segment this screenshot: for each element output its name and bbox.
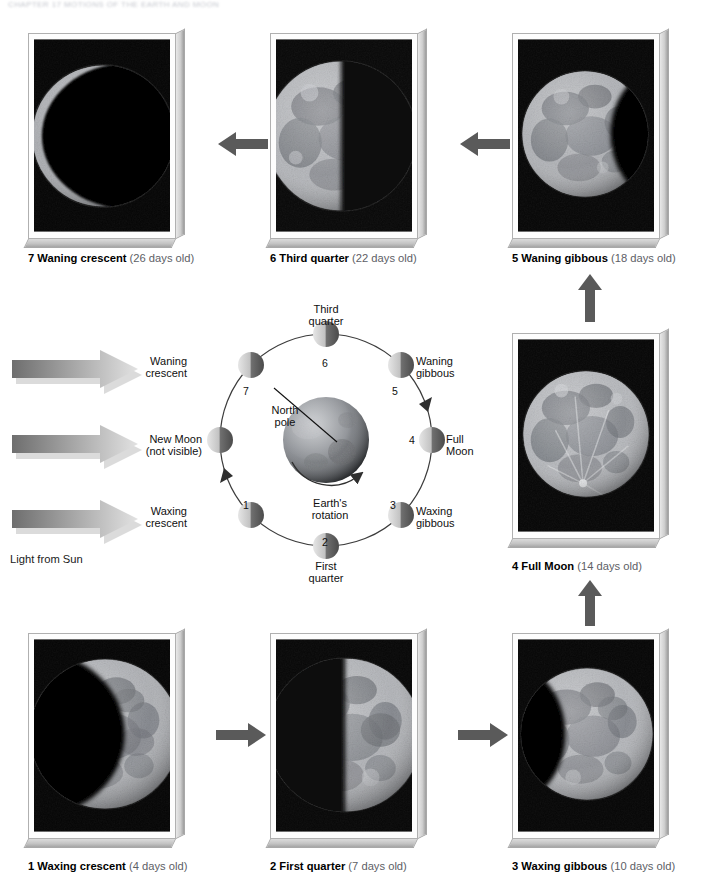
orbit-number-4: 4 — [409, 434, 415, 446]
plate-depth-right — [176, 629, 185, 839]
orbit-label-earth-rotation: Earth's rotation — [294, 497, 366, 522]
photo-plate-waxing-crescent — [28, 633, 176, 839]
plate-depth-bottom — [508, 839, 660, 848]
orbit-number-7: 7 — [243, 385, 249, 397]
moon-image-waning-gibbous — [518, 39, 654, 232]
caption-waxing-gibbous: 3 Waxing gibbous (10 days old) — [512, 860, 675, 872]
plate-depth-right — [418, 29, 427, 239]
arrow-three-to-four — [577, 578, 603, 626]
plate-depth-right — [418, 629, 427, 839]
photo-plate-third-quarter — [270, 33, 418, 239]
plate-depth-right — [660, 329, 669, 539]
orbit-label-full-moon: Full Moon — [446, 433, 506, 458]
caption-waning-gibbous: 5 Waning gibbous (18 days old) — [512, 252, 676, 264]
arrow-one-to-two — [216, 722, 268, 748]
caption-waxing-crescent: 1 Waxing crescent (4 days old) — [28, 860, 187, 872]
plate-depth-right — [176, 29, 185, 239]
orbit-moon-1 — [238, 502, 264, 528]
plate-depth-right — [660, 629, 669, 839]
arrow-four-to-five — [577, 272, 603, 322]
arrow-two-to-three — [458, 722, 510, 748]
photo-plate-waning-crescent — [28, 33, 176, 239]
moon-image-third-quarter — [276, 39, 412, 232]
orbit-label-north-pole: North pole — [258, 404, 312, 429]
plate-face — [28, 33, 176, 239]
caption-full-moon: 4 Full Moon (14 days old) — [512, 560, 642, 572]
figure-canvas: CHAPTER 17 MOTIONS OF THE EARTH AND MOON — [0, 0, 708, 893]
orbit-number-3: 3 — [390, 499, 396, 511]
plate-face — [270, 33, 418, 239]
plate-face — [512, 333, 660, 539]
orbit-label-waxing-gibbous: Waxing gibbous — [416, 505, 486, 530]
photo-plate-waxing-gibbous — [512, 633, 660, 839]
orbit-direction-marker-left — [220, 468, 233, 483]
arrow-six-to-seven — [216, 131, 268, 157]
plate-depth-bottom — [24, 239, 176, 248]
orbit-label-third-quarter: Third quarter — [286, 303, 366, 328]
caption-third-quarter: 6 Third quarter (22 days old) — [270, 252, 417, 264]
photo-plate-waning-gibbous — [512, 33, 660, 239]
orbit-label-waning-crescent: Waning crescent — [115, 355, 187, 380]
moon-image-waxing-gibbous — [518, 639, 654, 832]
plate-depth-bottom — [266, 839, 418, 848]
orbit-number-1: 1 — [243, 499, 249, 511]
orbit-direction-marker-right — [419, 397, 432, 412]
photo-plate-first-quarter — [270, 633, 418, 839]
orbit-moon-4 — [419, 427, 445, 453]
plate-face — [28, 633, 176, 839]
orbit-label-waning-gibbous: Waning gibbous — [416, 355, 486, 380]
orbit-label-waxing-crescent: Waxing crescent — [115, 505, 187, 530]
plate-depth-bottom — [266, 239, 418, 248]
caption-waning-crescent: 7 Waning crescent (26 days old) — [28, 252, 194, 264]
orbit-number-2: 2 — [322, 536, 328, 548]
orbit-number-5: 5 — [392, 385, 398, 397]
plate-depth-right — [660, 29, 669, 239]
orbit-label-new-moon: New Moon (not visible) — [106, 433, 202, 458]
arrow-five-to-six — [458, 131, 510, 157]
photo-plate-full-moon — [512, 333, 660, 539]
plate-face — [270, 633, 418, 839]
plate-depth-bottom — [24, 839, 176, 848]
running-head: CHAPTER 17 MOTIONS OF THE EARTH AND MOON — [8, 0, 428, 12]
moon-image-full-moon — [518, 339, 654, 532]
orbit-label-first-quarter: First quarter — [286, 560, 366, 585]
orbit-moon-7 — [238, 352, 264, 378]
plate-depth-bottom — [508, 539, 660, 548]
moon-image-waning-crescent — [34, 39, 170, 232]
moon-image-first-quarter — [276, 639, 412, 832]
caption-first-quarter: 2 First quarter (7 days old) — [270, 860, 407, 872]
moon-image-waxing-crescent — [34, 639, 170, 832]
plate-face — [512, 633, 660, 839]
orbit-moon-new — [207, 427, 233, 453]
plate-depth-bottom — [508, 239, 660, 248]
orbit-number-6: 6 — [322, 357, 328, 369]
orbit-moon-5 — [388, 352, 414, 378]
plate-face — [512, 33, 660, 239]
sunlight-label: Light from Sun — [10, 553, 83, 565]
